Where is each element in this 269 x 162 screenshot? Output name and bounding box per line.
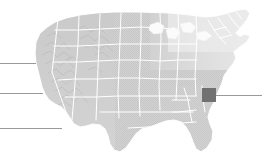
us-map-graphic xyxy=(0,0,269,162)
locator-map-figure xyxy=(0,0,269,162)
leader-line-right xyxy=(216,95,262,96)
leader-line-left-bottom xyxy=(0,128,62,129)
highlighted-state-georgia[interactable] xyxy=(202,88,216,102)
leader-line-left-top xyxy=(0,63,36,64)
leader-line-left-middle xyxy=(0,93,43,94)
